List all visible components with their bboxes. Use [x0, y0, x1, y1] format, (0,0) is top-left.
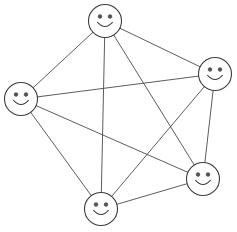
edge-top-bottom — [101, 38, 104, 193]
node-right[interactable] — [199, 58, 232, 91]
graph-diagram — [0, 0, 237, 232]
smiley-face-icon — [5, 83, 38, 116]
smiley-face-icon — [85, 193, 118, 226]
nodes-layer — [5, 5, 232, 226]
edge-left-bottom-right — [36, 106, 188, 173]
smiley-face-icon — [89, 5, 122, 38]
eye-right-icon — [206, 173, 210, 177]
node-top[interactable] — [89, 5, 122, 38]
edge-top-left — [33, 32, 93, 88]
node-left[interactable] — [5, 83, 38, 116]
eye-right-icon — [24, 93, 28, 97]
eye-left-icon — [98, 15, 102, 19]
node-bottom[interactable] — [85, 193, 118, 226]
edge-left-right — [37, 76, 198, 97]
node-bottom-right[interactable] — [187, 163, 220, 196]
eye-left-icon — [208, 68, 212, 72]
eye-right-icon — [108, 15, 112, 19]
smiley-face-icon — [199, 58, 232, 91]
eye-left-icon — [196, 173, 200, 177]
edge-right-bottom-right — [205, 90, 213, 162]
graph-canvas — [0, 0, 237, 232]
eye-left-icon — [14, 93, 18, 97]
eye-right-icon — [218, 68, 222, 72]
edge-bottom-right-bottom — [117, 184, 187, 205]
edge-left-bottom — [31, 112, 92, 195]
edges-layer — [31, 28, 213, 204]
eye-left-icon — [94, 203, 98, 207]
edge-top-right — [120, 28, 200, 67]
smiley-face-icon — [187, 163, 220, 196]
eye-right-icon — [104, 203, 108, 207]
